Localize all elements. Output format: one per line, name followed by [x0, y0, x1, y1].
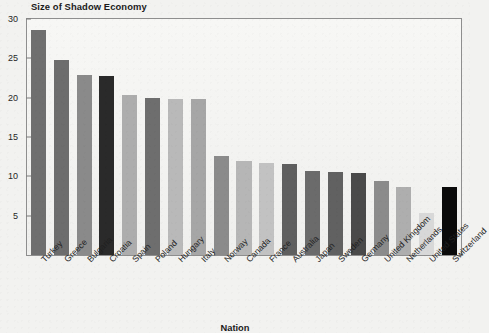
bar	[191, 99, 206, 255]
chart-title: Size of Shadow Economy	[31, 1, 147, 12]
bar	[145, 98, 160, 255]
bar-series	[27, 19, 461, 255]
bar	[77, 75, 92, 255]
bar	[168, 99, 183, 255]
y-tick-label: 25	[8, 53, 18, 63]
y-tick-label: 15	[8, 132, 18, 142]
bar	[214, 156, 229, 255]
y-tick-label: 5	[13, 211, 18, 221]
y-axis: 30252015105	[0, 0, 26, 270]
y-tick-label: 20	[8, 93, 18, 103]
bar	[99, 76, 114, 255]
bar	[122, 95, 137, 255]
y-tick-label: 30	[8, 14, 18, 24]
y-tick-label: 10	[8, 171, 18, 181]
bar	[54, 60, 69, 255]
x-axis-title: Nation	[0, 323, 470, 333]
bar	[31, 30, 46, 255]
x-axis-labels: TurkeyGreeceBulgariaCroatiaSpainPolandHu…	[27, 257, 461, 317]
